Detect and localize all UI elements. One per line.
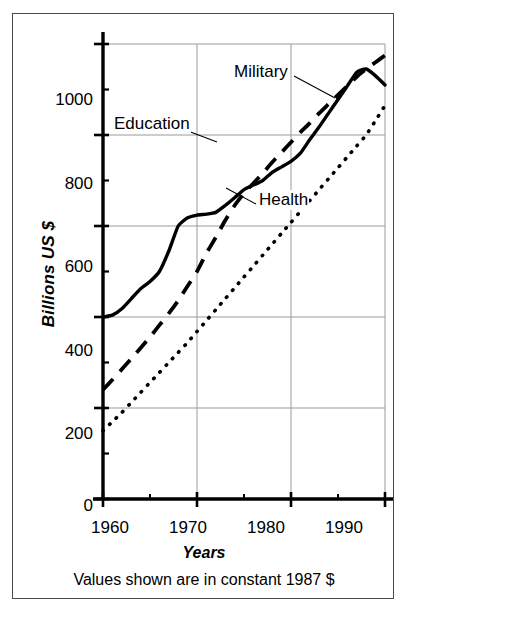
series-line-health [103, 105, 385, 430]
y-tick-label-400: 400 [29, 341, 93, 361]
x-axis-title: Years [13, 544, 395, 562]
series-line-military [103, 69, 385, 317]
series-line-education [103, 55, 385, 389]
figure-caption: Values shown are in constant 1987 $ [13, 571, 395, 589]
series-label-military: Military [233, 62, 289, 82]
gridlines [103, 44, 385, 499]
y-tick-label-200: 200 [29, 424, 93, 444]
y-tick-label-0: 0 [29, 496, 93, 516]
y-tick-label-1000: 1000 [29, 90, 93, 110]
y-tick-label-800: 800 [29, 174, 93, 194]
series-lines [103, 55, 385, 430]
figure-root: 1000 800 600 400 200 0 1960 1970 1980 19… [0, 0, 511, 629]
x-tick-label-1990: 1990 [309, 518, 379, 538]
axes [93, 32, 393, 499]
figure-frame: 1000 800 600 400 200 0 1960 1970 1980 19… [12, 13, 394, 599]
x-tick-label-1960: 1960 [75, 518, 145, 538]
leader-line-military [294, 76, 335, 98]
plot-area: 1000 800 600 400 200 0 1960 1970 1980 19… [13, 14, 395, 600]
series-label-health: Health [258, 190, 309, 210]
x-tick-label-1970: 1970 [153, 518, 223, 538]
series-label-education: Education [113, 114, 191, 134]
x-tick-label-1980: 1980 [231, 518, 301, 538]
y-axis-title: Billions US $ [39, 204, 59, 344]
